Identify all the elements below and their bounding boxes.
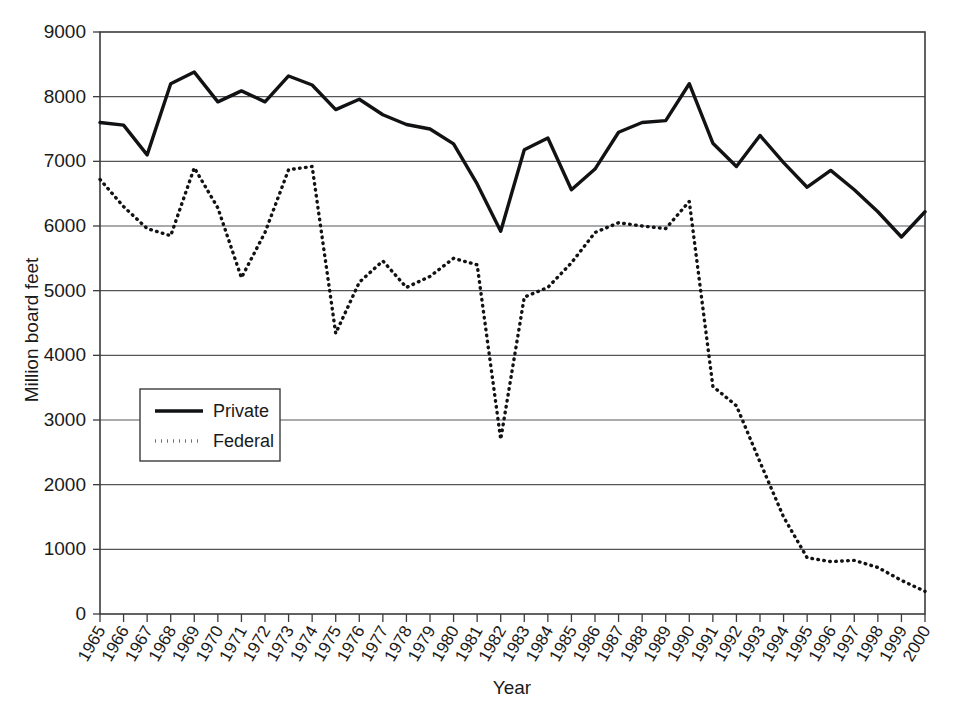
- x-axis-tick-marks: [100, 614, 925, 622]
- y-axis-tick-labels: 0100020003000400050006000700080009000: [44, 21, 86, 624]
- y-tick-label: 4000: [44, 344, 86, 365]
- y-tick-label: 0: [75, 603, 86, 624]
- y-axis-title: Million board feet: [21, 257, 42, 402]
- forest-harvest-line-chart: 0100020003000400050006000700080009000 19…: [0, 0, 955, 711]
- y-tick-label: 8000: [44, 86, 86, 107]
- y-tick-label: 6000: [44, 215, 86, 236]
- y-tick-label: 2000: [44, 474, 86, 495]
- y-tick-label: 3000: [44, 409, 86, 430]
- x-axis-tick-labels: 1965196619671968196919701971197219731974…: [74, 623, 934, 665]
- legend-label-private: Private: [213, 401, 269, 421]
- y-tick-label: 1000: [44, 538, 86, 559]
- chart-legend: Private Federal: [140, 389, 280, 461]
- y-tick-label: 7000: [44, 150, 86, 171]
- series-line-federal: [100, 167, 925, 592]
- legend-label-federal: Federal: [213, 431, 274, 451]
- chart-container: 0100020003000400050006000700080009000 19…: [0, 0, 955, 711]
- y-tick-label: 5000: [44, 280, 86, 301]
- x-axis-title: Year: [493, 677, 532, 698]
- y-tick-label: 9000: [44, 21, 86, 42]
- y-axis-tick-marks: [93, 32, 100, 614]
- gridlines: [100, 97, 925, 550]
- plot-area-frame: [100, 32, 925, 614]
